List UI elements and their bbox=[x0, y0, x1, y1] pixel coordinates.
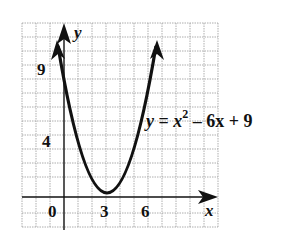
curve-arrow-left-icon bbox=[51, 40, 65, 60]
x-axis-label: x bbox=[204, 201, 214, 220]
equation-label: y = x2 – 6x + 9 bbox=[144, 107, 253, 131]
y-axis-label: y bbox=[72, 23, 82, 42]
tick-label-y9: 9 bbox=[37, 60, 46, 79]
tick-label-x6: 6 bbox=[141, 202, 150, 221]
tick-label-x0: 0 bbox=[48, 202, 57, 221]
tick-label-x3: 3 bbox=[100, 202, 109, 221]
tick-label-y4: 4 bbox=[42, 132, 51, 151]
parabola-curve bbox=[58, 46, 156, 193]
parabola-graph: y x 9 4 0 3 6 y = x2 – 6x + 9 bbox=[0, 0, 298, 233]
